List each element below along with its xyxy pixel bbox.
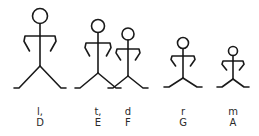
label-figure-1: l, D xyxy=(28,106,52,128)
stick-figure-5 xyxy=(217,47,249,88)
syllable-label: d xyxy=(116,106,140,117)
note-label: F xyxy=(116,117,140,128)
left-arm xyxy=(171,56,183,66)
head xyxy=(92,20,105,33)
left-leg xyxy=(164,78,183,87)
left-arm xyxy=(116,49,128,60)
stick-figure-diagram: l, D t, E d F r G m A xyxy=(0,0,259,136)
stick-figure-3 xyxy=(108,28,148,88)
stick-figure-1 xyxy=(14,9,66,89)
right-leg xyxy=(233,79,249,87)
label-figure-2: t, E xyxy=(86,106,110,128)
left-arm xyxy=(85,43,98,56)
right-leg xyxy=(98,73,121,88)
note-label: G xyxy=(171,117,195,128)
label-figure-4: r G xyxy=(171,106,195,128)
left-leg xyxy=(14,66,40,88)
left-leg xyxy=(108,76,128,88)
left-leg xyxy=(75,73,98,88)
right-arm xyxy=(40,36,56,51)
label-figure-5: m A xyxy=(221,106,245,128)
right-arm xyxy=(128,49,140,60)
right-arm xyxy=(98,43,111,56)
right-leg xyxy=(183,78,202,87)
right-arm xyxy=(233,61,244,70)
stick-figure-4 xyxy=(164,38,202,88)
head xyxy=(33,9,48,24)
left-arm xyxy=(24,36,40,51)
note-label: A xyxy=(221,117,245,128)
head xyxy=(229,47,238,56)
syllable-label: l, xyxy=(28,106,52,117)
note-label: D xyxy=(28,117,52,128)
right-leg xyxy=(40,66,66,88)
head xyxy=(178,38,189,49)
left-arm xyxy=(222,61,233,70)
note-label: E xyxy=(86,117,110,128)
syllable-label: r xyxy=(171,106,195,117)
stick-figure-2 xyxy=(75,20,121,89)
head xyxy=(122,28,134,40)
syllable-label: t, xyxy=(86,106,110,117)
label-figure-3: d F xyxy=(116,106,140,128)
right-leg xyxy=(128,76,148,88)
syllable-label: m xyxy=(221,106,245,117)
left-leg xyxy=(217,79,233,87)
right-arm xyxy=(183,56,195,66)
